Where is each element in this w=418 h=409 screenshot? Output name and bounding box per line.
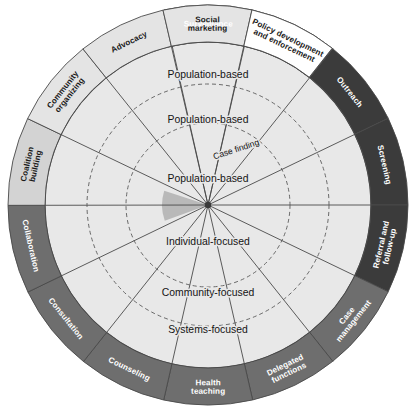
ring-label: Population-based	[168, 114, 249, 125]
ring-label: Individual-focused	[166, 236, 250, 247]
wheel-hub	[205, 202, 211, 208]
ring-label: Community-focused	[162, 287, 255, 298]
ring-label: Population-based	[168, 69, 249, 80]
outer-segment-label: Healthteaching	[191, 378, 225, 396]
ring-label: Population-based	[168, 173, 249, 184]
ring-label: Systems-focused	[168, 324, 248, 335]
intervention-wheel-diagram: SurveillanceDiseaseand healthevent inves…	[0, 0, 418, 409]
